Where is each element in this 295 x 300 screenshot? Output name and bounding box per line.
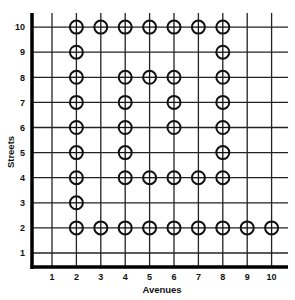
marker-avenue-10-street-2 [265, 221, 278, 234]
y-tick-label: 4 [20, 173, 25, 183]
marker-avenue-8-street-2 [216, 221, 229, 234]
y-tick-label: 3 [20, 198, 25, 208]
y-tick-label: 5 [20, 148, 25, 158]
marker-avenue-5-street-10 [143, 21, 156, 34]
marker-avenue-5-street-2 [143, 221, 156, 234]
x-tick-label: 6 [171, 272, 176, 282]
marker-avenue-6-street-2 [168, 221, 181, 234]
marker-avenue-7-street-4 [192, 171, 205, 184]
y-tick-label: 1 [20, 248, 25, 258]
marker-avenue-4-street-6 [119, 121, 132, 134]
marker-avenue-2-street-6 [70, 121, 83, 134]
x-tick-label: 3 [98, 272, 103, 282]
x-tick-label: 9 [245, 272, 250, 282]
marker-avenue-7-street-10 [192, 21, 205, 34]
x-tick-label: 7 [196, 272, 201, 282]
marker-avenue-2-street-7 [70, 96, 83, 109]
x-tick-labels: 12345678910 [49, 272, 276, 282]
marker-avenue-3-street-10 [94, 21, 107, 34]
y-axis-label: Streets [5, 136, 16, 168]
marker-avenue-6-street-7 [168, 96, 181, 109]
marker-avenue-8-street-7 [216, 96, 229, 109]
marker-avenue-6-street-6 [168, 121, 181, 134]
street-grid-chart: 12345678910 12345678910 Avenues Streets [0, 0, 295, 300]
marker-avenue-2-street-5 [70, 146, 83, 159]
x-tick-label: 8 [220, 272, 225, 282]
marker-avenue-6-street-4 [168, 171, 181, 184]
marker-avenue-2-street-8 [70, 71, 83, 84]
marker-avenue-8-street-8 [216, 71, 229, 84]
marker-avenue-5-street-4 [143, 171, 156, 184]
y-tick-label: 8 [20, 73, 25, 83]
marker-avenue-4-street-10 [119, 21, 132, 34]
x-tick-label: 2 [74, 272, 79, 282]
marker-avenue-7-street-2 [192, 221, 205, 234]
marker-avenue-2-street-2 [70, 221, 83, 234]
marker-avenue-2-street-3 [70, 196, 83, 209]
marker-avenue-4-street-5 [119, 146, 132, 159]
marker-avenue-6-street-10 [168, 21, 181, 34]
marker-avenue-6-street-8 [168, 71, 181, 84]
marker-avenue-8-street-5 [216, 146, 229, 159]
marker-avenue-8-street-4 [216, 171, 229, 184]
marker-avenue-2-street-10 [70, 21, 83, 34]
x-tick-label: 1 [49, 272, 54, 282]
x-tick-label: 4 [123, 272, 128, 282]
marker-avenue-8-street-9 [216, 46, 229, 59]
x-tick-label: 5 [147, 272, 152, 282]
marker-avenue-4-street-4 [119, 171, 132, 184]
y-tick-label: 2 [20, 223, 25, 233]
marker-avenue-4-street-2 [119, 221, 132, 234]
y-tick-label: 7 [20, 98, 25, 108]
marker-avenue-4-street-7 [119, 96, 132, 109]
marker-avenue-3-street-2 [94, 221, 107, 234]
marker-avenue-8-street-10 [216, 21, 229, 34]
y-tick-labels: 12345678910 [15, 22, 25, 258]
marker-avenue-8-street-6 [216, 121, 229, 134]
marker-avenue-4-street-8 [119, 71, 132, 84]
y-tick-label: 9 [20, 47, 25, 57]
marker-avenue-2-street-4 [70, 171, 83, 184]
marker-avenue-9-street-2 [241, 221, 254, 234]
y-tick-label: 6 [20, 123, 25, 133]
marker-avenue-5-street-8 [143, 71, 156, 84]
x-tick-label: 10 [267, 272, 277, 282]
marker-avenue-2-street-9 [70, 46, 83, 59]
y-tick-label: 10 [15, 22, 25, 32]
x-axis-label: Avenues [142, 284, 181, 295]
